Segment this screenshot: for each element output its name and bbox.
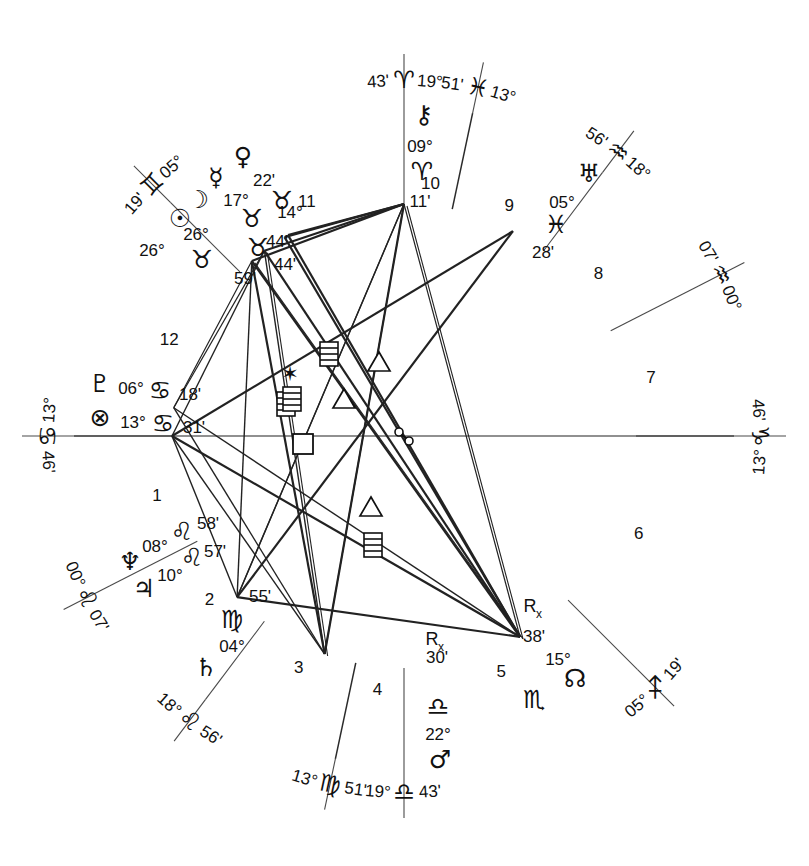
aspect-glyph-square xyxy=(293,434,313,454)
planet-glyph: ♃ xyxy=(133,574,155,603)
planet-degree: 06° xyxy=(118,379,144,398)
sextile-star: ✶ xyxy=(281,362,299,386)
planet-mars: ♂22°♎30'Rx xyxy=(425,629,451,774)
house-number-7: 7 xyxy=(646,368,655,387)
cusp-minute: 46' xyxy=(748,398,769,421)
planet-minute: 11' xyxy=(410,192,431,211)
planet-glyph: ♀ xyxy=(234,142,252,171)
planet-degree: 26° xyxy=(139,241,165,260)
planet-degree: 15° xyxy=(545,650,571,669)
cusp-degree: 00° xyxy=(62,559,89,590)
planet-minute: 30' xyxy=(426,648,448,667)
planet-minute: 18' xyxy=(179,385,201,404)
planet-minute: 44' xyxy=(274,255,296,274)
aspect-line xyxy=(252,261,520,637)
cusp-degree: 19° xyxy=(364,781,391,802)
planet-degree: 09° xyxy=(407,137,433,156)
house-number-1: 1 xyxy=(152,486,161,505)
cusp-minute: 43' xyxy=(366,71,389,92)
planet-labels: ☉26°♉59'☽26°♉44'☿17°♉44'♀14°♉22'⚷09°♈11'… xyxy=(89,100,600,774)
cusp-minute: 07' xyxy=(85,606,113,635)
cusp-sign-glyph: ♑ xyxy=(746,425,774,447)
planet-pluto: ♇06°♋18' xyxy=(89,369,201,405)
aspect-glyph-opposition xyxy=(395,428,413,445)
planet-sign-glyph: ♋ xyxy=(152,409,174,438)
house-number-2: 2 xyxy=(205,590,214,609)
planet-glyph: ♆ xyxy=(119,547,141,576)
aspect-glyph-quincunx xyxy=(283,387,301,411)
planet-sign-glyph: ♋ xyxy=(149,376,171,405)
cusp-sign-glyph: ♎ xyxy=(393,778,415,806)
aspect-glyph-trine xyxy=(368,352,390,371)
square-box xyxy=(293,434,313,454)
house-number-9: 9 xyxy=(505,196,514,215)
planet-glyph: ♂ xyxy=(429,745,451,774)
planet-south-node: ☊15°♏38'Rx xyxy=(523,596,586,714)
planet-sign-glyph: ♉ xyxy=(271,186,293,215)
planet-sign-glyph: ♌ xyxy=(181,543,203,572)
cusp-minute: 46' xyxy=(38,450,59,473)
house-number-8: 8 xyxy=(594,264,603,283)
natal-chart-wheel: 13°♋46'00°♌07'18°♌56'13°♍51'19°♎43'05°♐1… xyxy=(0,0,809,866)
retrograde-marker: R xyxy=(426,629,439,649)
planet-minute: 38' xyxy=(523,627,545,646)
planet-sign-glyph: ♎ xyxy=(427,692,449,721)
chart-svg: 13°♋46'00°♌07'18°♌56'13°♍51'19°♎43'05°♐1… xyxy=(0,0,809,866)
planet-sign-glyph: ♏ xyxy=(523,685,545,714)
house-number-4: 4 xyxy=(373,680,382,699)
planet-minute: 57' xyxy=(204,542,226,561)
cusp-sign-glyph: ♈ xyxy=(393,66,415,94)
planet-minute: 59' xyxy=(234,269,256,288)
planet-sun: ☉26°♉59' xyxy=(139,204,256,288)
planet-minute: 58' xyxy=(197,514,219,533)
planet-minute: 44' xyxy=(266,232,288,251)
planet-sign-glyph: ♉ xyxy=(241,204,263,233)
aspect-line xyxy=(325,204,404,654)
planet-part-of-fortune: ⊗13°♋31' xyxy=(90,403,206,438)
cusp-degree: 13° xyxy=(488,82,518,107)
aspect-glyph-quincunx xyxy=(364,533,382,557)
planet-sign-glyph: ♍ xyxy=(221,605,243,634)
cusp-sign-glyph: ♋ xyxy=(34,425,62,447)
cusp-degree: 13° xyxy=(749,448,770,475)
cusp-minute: 56' xyxy=(196,722,225,750)
aspect-glyph-sextile: ✶ xyxy=(281,362,299,386)
cusp-degree: 13° xyxy=(39,397,60,424)
house-number-6: 6 xyxy=(634,524,643,543)
planet-sign-glyph: ♉ xyxy=(191,245,213,274)
planet-glyph: ☽ xyxy=(187,185,209,214)
planet-glyph: ♅ xyxy=(578,159,600,188)
planet-degree: 04° xyxy=(219,637,245,656)
planet-degree: 13° xyxy=(120,413,146,432)
trine-triangle xyxy=(360,497,382,516)
planet-minute: 28' xyxy=(532,243,554,262)
house-number-3: 3 xyxy=(294,658,303,677)
retrograde-marker-sub: x xyxy=(536,607,542,621)
planet-uranus: ♅05°♓28' xyxy=(532,159,600,262)
planet-glyph: ⚷ xyxy=(415,100,433,129)
cusp-minute: 43' xyxy=(418,781,441,802)
cusp-minute: 51' xyxy=(440,73,465,95)
planet-degree: 22° xyxy=(425,725,451,744)
cusp-minute: 19' xyxy=(659,654,688,683)
planet-glyph: ⊗ xyxy=(90,403,111,432)
planet-sign-glyph: ♌ xyxy=(171,517,193,546)
retrograde-marker: R xyxy=(524,596,537,616)
planet-degree: 08° xyxy=(142,537,168,556)
planet-chiron: ⚷09°♈11' xyxy=(407,100,433,211)
cusp-degree: 19° xyxy=(416,71,443,92)
cusp-minute: 07' xyxy=(694,238,722,267)
planet-glyph: ♇ xyxy=(89,369,111,398)
planet-minute: 31' xyxy=(183,418,205,437)
aspect-line xyxy=(237,597,520,637)
planet-glyph: ☿ xyxy=(208,163,223,192)
trine-triangle xyxy=(368,352,390,371)
planet-minute: 55' xyxy=(249,587,271,606)
house-number-12: 12 xyxy=(160,330,179,349)
house-number-5: 5 xyxy=(496,662,505,681)
cusp-degree: 13° xyxy=(290,766,320,791)
cusp-minute: 56' xyxy=(582,123,611,151)
retrograde-marker-sub: x xyxy=(438,640,444,654)
cusp-sign-glyph: ♍ xyxy=(317,768,344,800)
planet-degree: 10° xyxy=(157,566,183,585)
